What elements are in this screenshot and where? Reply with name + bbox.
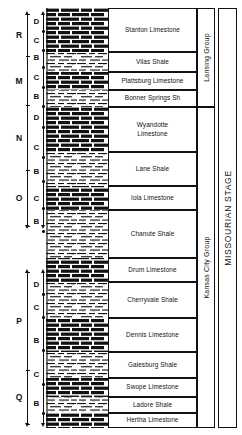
lithology-band [46, 152, 108, 186]
lithology-band [46, 318, 108, 352]
cyclothem-inner-dot [42, 86, 45, 89]
lithology-band [46, 258, 108, 282]
cyclothem-inner-label: C [31, 144, 42, 152]
cyclothem-inner-label: D [31, 281, 42, 289]
cyclothem-inner-label: B [31, 168, 42, 176]
cyclothem-inner-dot [42, 156, 45, 159]
formation-row[interactable]: Cherryvale Shale [108, 282, 197, 318]
cyclothem-boundary-tick [26, 105, 30, 106]
cyclothem-inner-label: B [31, 400, 42, 408]
cyclothem-boundary-tick [26, 226, 30, 227]
stage-name: MISSOURIAN STAGE [223, 170, 233, 266]
cyclothem-inner-dot [42, 207, 45, 210]
lithology-band [46, 8, 108, 52]
cyclothem-inner-dot [42, 66, 45, 69]
cyclothem-inner-label: B [31, 54, 42, 62]
lithology-band [46, 397, 108, 413]
cyclothem-inner-dot [42, 383, 45, 386]
lithology-strip [46, 8, 108, 428]
group-cell[interactable]: Lansing Group [197, 8, 215, 107]
formation-name: Drum Limestone [126, 266, 178, 275]
lithology-band [46, 107, 108, 152]
formation-name: Vilas Shale [134, 58, 171, 67]
formation-row[interactable]: Chanute Shale [108, 210, 197, 258]
formation-name: Ladore Shale [131, 401, 174, 410]
lithology-band [46, 378, 108, 397]
formation-row[interactable]: Stanton Limestone [108, 8, 197, 52]
formation-name: Iola Limestone [129, 194, 176, 203]
cyclothem-outer-label: O [12, 194, 26, 203]
group-name: Lansing Group [203, 33, 210, 82]
cyclothem-inner-label: C [31, 371, 42, 379]
cyclothem-inner-dot [42, 126, 45, 129]
cyclothem-inner-dot [42, 412, 45, 415]
group-name: Kansas City Group [203, 236, 210, 298]
formation-name: Plattsburg Limestone [119, 77, 185, 86]
formation-row[interactable]: WyandotteLimestone [108, 107, 197, 152]
cyclothem-inner-label: B [31, 93, 42, 101]
formation-name: Lane Shale [134, 165, 171, 174]
formation-row[interactable]: Plattsburg Limestone [108, 72, 197, 90]
formation-row[interactable]: Bonner Springs Sh [108, 90, 197, 107]
cyclothem-inner-dot [42, 230, 45, 233]
cyclothem-inner-label: C [31, 74, 42, 82]
lithology-band [46, 352, 108, 378]
cyclothem-inner-dot [42, 180, 45, 183]
cyclothem-boundary-tick [26, 370, 30, 371]
formation-row[interactable]: Vilas Shale [108, 52, 197, 72]
cyclothem-outer-arrow [27, 14, 28, 226]
formation-row[interactable]: Ladore Shale [108, 397, 197, 413]
formation-name: Bonner Springs Sh [123, 94, 182, 103]
cyclothem-outer-label: P [12, 317, 26, 326]
cyclothem-inner-label: D [31, 18, 42, 26]
cyclothem-outer-label: M [12, 77, 26, 86]
formation-name: Swope Limestone [124, 383, 180, 392]
arrow-head-up-icon [41, 11, 45, 15]
lithology-band [46, 210, 108, 258]
formation-row[interactable]: Lane Shale [108, 152, 197, 186]
cyclothem-inner-dot [42, 49, 45, 52]
formation-name: Hertha Limestone [124, 416, 180, 425]
cyclothem-inner-dot [42, 105, 45, 108]
lithology-band [46, 52, 108, 72]
lithology-band [46, 413, 108, 428]
lithology-band [46, 90, 108, 107]
cyclothem-boundary-tick [26, 272, 30, 273]
group-cell[interactable]: Kansas City Group [197, 107, 215, 428]
cyclothem-boundary-tick [26, 170, 30, 171]
cyclothem-boundary-tick [26, 14, 30, 15]
cyclothem-outer-label: R [12, 31, 26, 40]
cyclothem-inner-dot [42, 349, 45, 352]
formation-row[interactable]: Dennis Limestone [108, 318, 197, 352]
cyclothem-inner-label: B [31, 337, 42, 345]
cyclothem-outer-arrow [27, 272, 28, 424]
cyclothem-inner-dot [42, 293, 45, 296]
cyclothem-boundary-tick [26, 56, 30, 57]
formation-name: Chanute Shale [129, 230, 177, 239]
arrow-head-up-icon [41, 269, 45, 273]
cyclothem-inner-arrow [43, 14, 44, 226]
cyclothem-inner-label: C [31, 37, 42, 45]
lithology-band [46, 282, 108, 318]
cyclothem-boundary-tick [26, 424, 30, 425]
lithology-band [46, 186, 108, 210]
formation-row[interactable]: Swope Limestone [108, 378, 197, 397]
formation-row[interactable]: Iola Limestone [108, 186, 197, 210]
formation-row[interactable]: Galesburg Shale [108, 352, 197, 378]
formation-row[interactable]: Hertha Limestone [108, 413, 197, 428]
cyclothem-inner-dot [42, 316, 45, 319]
cyclothem-inner-label: C [31, 195, 42, 203]
formation-name: Dennis Limestone [124, 331, 181, 340]
cyclothem-outer-label: N [12, 134, 26, 143]
cyclothem-inner-label: D [31, 114, 42, 122]
arrow-head-down-icon [41, 225, 45, 229]
formation-name: Galesburg Shale [126, 361, 179, 370]
stratigraphic-column-figure: RMNOPQ DCBCBDCBCBDCBCB [0, 0, 242, 435]
formation-row[interactable]: Drum Limestone [108, 258, 197, 282]
lithology-band [46, 72, 108, 90]
stage-cell[interactable]: MISSOURIAN STAGE [218, 8, 237, 428]
cyclothem-inner-label: C [31, 304, 42, 312]
formation-name: WyandotteLimestone [135, 121, 170, 138]
cyclothem-outer-label: Q [12, 393, 26, 402]
arrow-head-down-icon [41, 423, 45, 427]
